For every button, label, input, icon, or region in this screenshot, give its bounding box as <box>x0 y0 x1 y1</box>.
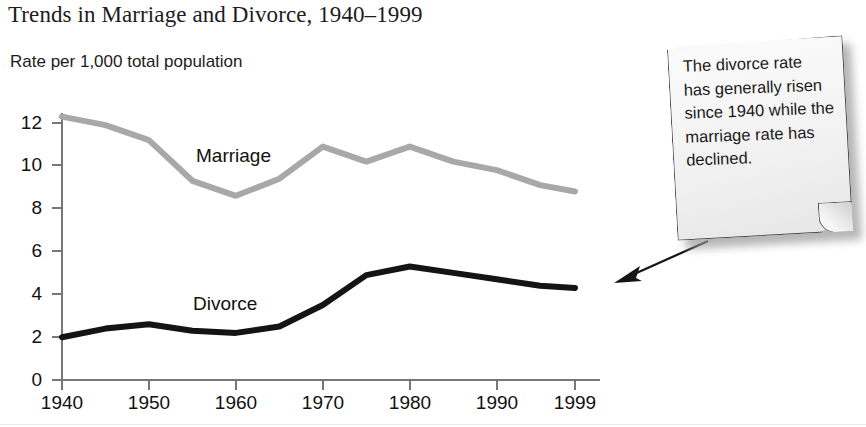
scan-artifact-line <box>0 424 866 425</box>
series-label-divorce: Divorce <box>193 293 257 315</box>
series-label-marriage: Marriage <box>196 145 271 167</box>
y-tick-label-4: 4 <box>8 283 42 305</box>
y-tick-label-2: 2 <box>8 326 42 348</box>
y-tick-label-8: 8 <box>8 197 42 219</box>
y-tick-label-6: 6 <box>8 240 42 262</box>
y-axis-ticks <box>52 123 62 380</box>
y-tick-label-12: 12 <box>8 112 42 134</box>
chart-subtitle: Rate per 1,000 total population <box>10 52 243 72</box>
figure-root: Trends in Marriage and Divorce, 1940–199… <box>0 0 866 427</box>
x-tick-label-1950: 1950 <box>117 392 181 414</box>
series-line-divorce <box>62 267 575 338</box>
series-line-marriage <box>62 117 575 196</box>
x-tick-label-1970: 1970 <box>291 392 355 414</box>
x-tick-label-1960: 1960 <box>204 392 268 414</box>
page-title: Trends in Marriage and Divorce, 1940–199… <box>8 2 423 28</box>
callout-text: The divorce rate has generally risen sin… <box>682 49 836 172</box>
x-axis-ticks <box>62 380 575 390</box>
callout-corner-curl-icon <box>818 201 854 233</box>
x-tick-label-1940: 1940 <box>30 392 94 414</box>
x-tick-label-1980: 1980 <box>378 392 442 414</box>
y-tick-label-10: 10 <box>8 154 42 176</box>
x-tick-label-1990: 1990 <box>465 392 529 414</box>
x-tick-label-1999: 1999 <box>543 392 607 414</box>
y-tick-label-0: 0 <box>8 369 42 391</box>
line-chart-svg <box>0 95 640 395</box>
plot-area: 12 10 8 6 4 2 0 1940 1950 1960 1970 1980… <box>0 95 640 395</box>
callout-note: The divorce rate has generally risen sin… <box>667 35 854 241</box>
